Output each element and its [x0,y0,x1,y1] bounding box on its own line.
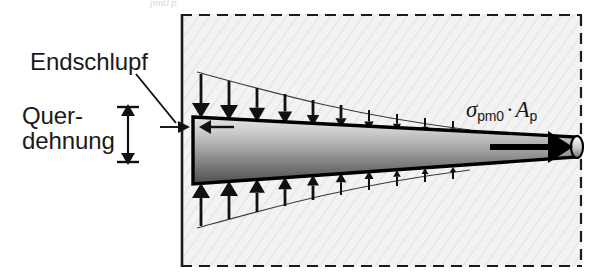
label-quer-line1: Quer- [22,102,83,129]
sigma-subscript: pm0 [477,108,504,124]
area-subscript: p [529,108,537,124]
figure-canvas: pm0 p Endschlupf Quer- dehnung σpm0·Ap [0,0,612,278]
label-prestress-force-formula: σpm0·Ap [466,98,537,124]
clipped-top-text: pm0 p [150,0,177,9]
label-endschlupf: Endschlupf [30,49,148,74]
label-quer-line2: dehnung [22,128,115,153]
multiplication-dot: · [504,97,516,122]
area-symbol: A [515,97,529,122]
sigma-symbol: σ [466,97,477,122]
transverse-strain-dimension [117,104,139,165]
label-querdehnung: Quer- dehnung [22,103,115,154]
